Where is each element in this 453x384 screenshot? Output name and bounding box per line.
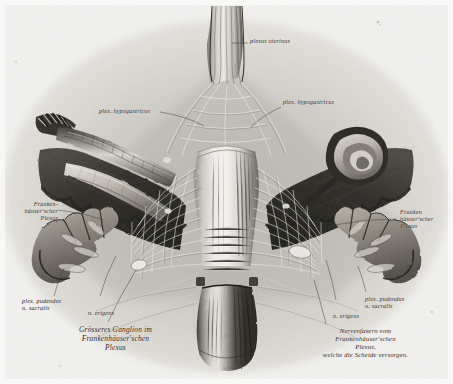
caption-ganglion: Grösseres Ganglion im Frankenhäuser'sche…: [48, 325, 183, 352]
label-plex-pudendus-left-line1: plex. pudendus: [22, 298, 61, 305]
label-frankenhauser-right-line3: Plexus: [400, 223, 450, 230]
label-plex-pudendus-right: plex. pudendus u. sacralis: [365, 296, 404, 310]
caption-vaginal-fibers: Nervenfasern vom Frankenhäuser'schen Ple…: [288, 327, 443, 359]
anatomical-plate: plexus uterinus plex. hypogastricus plex…: [0, 0, 453, 384]
label-plex-pudendus-right-line2: u. sacralis: [365, 303, 404, 310]
label-plex-pudendus-right-line1: plex. pudendus: [365, 296, 404, 303]
caption-vaginal-fibers-line2: Frankenhäuser'schen: [288, 335, 443, 343]
caption-ganglion-line1: Grösseres Ganglion im: [48, 325, 183, 334]
caption-vaginal-fibers-line4: welche die Scheide versorgen.: [288, 351, 443, 359]
label-frankenhauser-left-line1: Franken-: [10, 201, 58, 208]
label-plex-hypogastricus-right: plex. hypogastricus: [283, 99, 334, 106]
label-plexus-uterinus: plexus uterinus: [250, 38, 290, 45]
label-frankenhauser-left: Franken- häuser'scher Plexus: [10, 201, 58, 221]
label-n-erigens-right: n. erigens: [333, 313, 359, 320]
caption-vaginal-fibers-line1: Nervenfasern vom: [288, 327, 443, 335]
label-plex-pudendus-left-line2: u. sacralis: [22, 305, 61, 312]
label-n-erigens-left: n. erigens: [88, 310, 114, 317]
label-frankenhauser-right-line1: Franken: [400, 209, 450, 216]
label-frankenhauser-left-line2: häuser'scher: [10, 208, 58, 215]
label-frankenhauser-right-line2: häuser'scher: [400, 216, 450, 223]
caption-ganglion-line3: Plexus: [48, 343, 183, 352]
caption-ganglion-line2: Frankenhäuser'schen: [48, 334, 183, 343]
caption-vaginal-fibers-line3: Plexus,: [288, 343, 443, 351]
label-frankenhauser-right: Franken häuser'scher Plexus: [400, 209, 450, 229]
label-plex-pudendus-left: plex. pudendus u. sacralis: [22, 298, 61, 312]
label-plex-hypogastricus-left: plex. hypogastricus: [99, 108, 150, 115]
label-frankenhauser-left-line3: Plexus: [10, 215, 58, 222]
